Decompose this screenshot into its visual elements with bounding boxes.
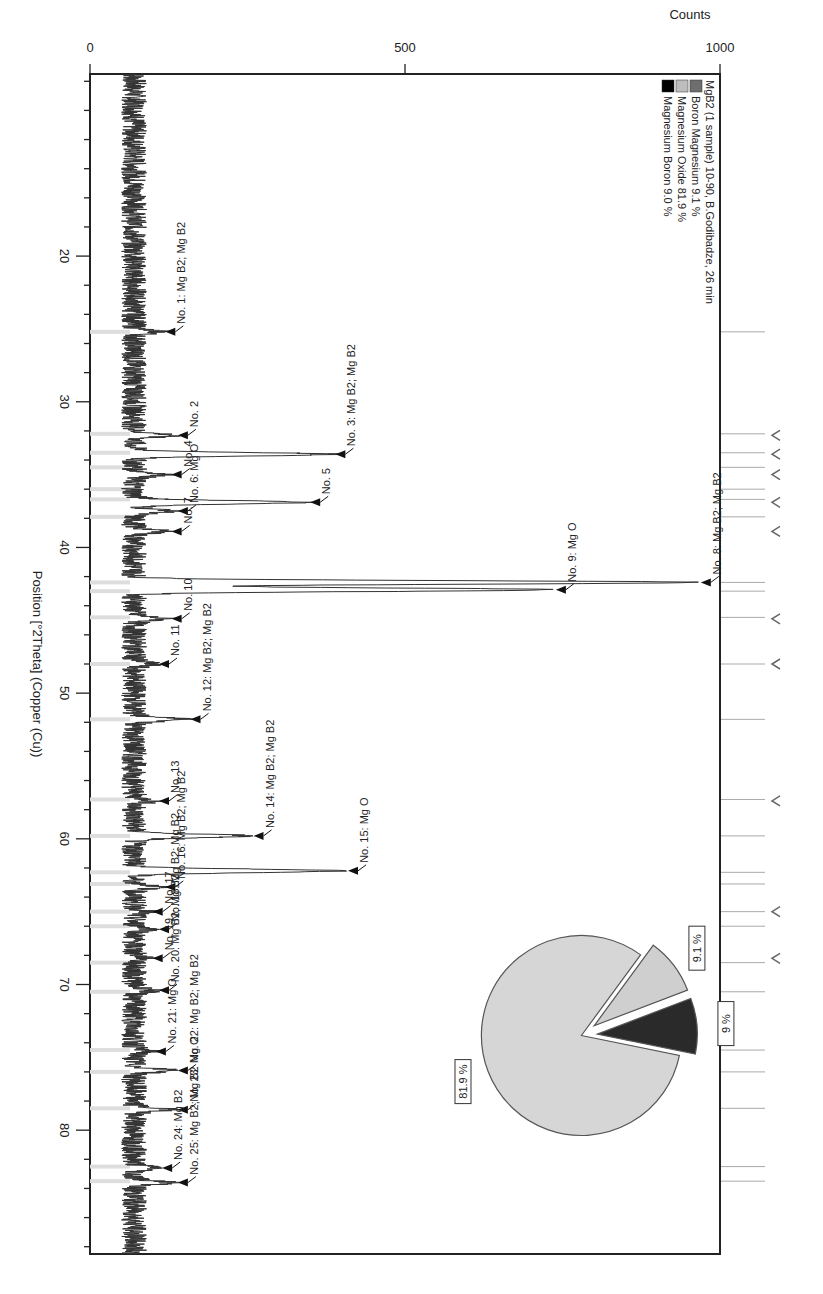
peak-label: No. 6: Mg O [188, 443, 200, 503]
phase-band [90, 615, 130, 619]
phase-band [90, 1165, 130, 1169]
phase-band [90, 515, 130, 519]
peak-label: No. 24: Mg B2 [172, 1090, 184, 1160]
phase-band [90, 1106, 130, 1110]
phase-band [90, 990, 130, 994]
peak-label: No. 11 [169, 624, 181, 656]
x-tick-label: 60 [57, 832, 72, 846]
reference-marker-icon [772, 430, 780, 440]
phase-band [90, 497, 130, 501]
phase-band [90, 882, 130, 886]
x-tick-label: 50 [57, 686, 72, 700]
phase-band [90, 451, 130, 455]
phase-band [90, 580, 130, 584]
peak-label: No. 14: Mg B2; Mg B2 [264, 720, 276, 828]
peak-label: No. 8: Mg B2; Mg B2 [711, 472, 723, 574]
phase-band [90, 797, 130, 801]
phase-band [90, 717, 130, 721]
peak-label: No. 10 [182, 578, 194, 610]
legend-entry: Magnesium Oxide 81.9 % [676, 96, 688, 222]
y-tick-label: 0 [86, 40, 93, 55]
x-tick-label: 80 [57, 1123, 72, 1137]
peak-label: No. 21: Mg O [166, 978, 178, 1044]
phase-band [90, 910, 130, 914]
x-tick-label: 70 [57, 977, 72, 991]
reference-markers [772, 430, 780, 963]
y-axis: 05001000Counts [86, 7, 734, 74]
peak-label: No. 20: Mg B2; Mg B2 [169, 874, 181, 982]
peak-label: No. 3: Mg B2; Mg B2 [345, 344, 357, 446]
reference-marker-icon [772, 449, 780, 459]
phase-band [90, 834, 130, 838]
x-tick-label: 30 [57, 395, 72, 409]
reference-marker-icon [772, 614, 780, 624]
x-tick-label: 20 [57, 249, 72, 263]
reference-marker-icon [772, 526, 780, 536]
reference-marker-icon [772, 796, 780, 806]
pie-tag: 81.9 % [457, 1064, 469, 1098]
pie-tag: 9 % [720, 1014, 732, 1033]
reference-marker-icon [772, 953, 780, 963]
phase-band [90, 330, 130, 334]
peak-label: No. 9: Mg O [566, 522, 578, 582]
phase-band [90, 1048, 130, 1052]
phase-band [90, 870, 130, 874]
pie-tag: 9.1 % [691, 934, 703, 962]
phase-band [90, 432, 130, 436]
phase-band [90, 1070, 130, 1074]
y-tick-label: 500 [394, 40, 416, 55]
rotated-chart-container: No. 1: Mg B2; Mg B2No. 2No. 3: Mg B2; Mg… [0, 0, 823, 1294]
reference-marker-icon [772, 470, 780, 480]
peak-label: No. 12: Mg B2; Mg B2 [201, 603, 213, 711]
phase-band [90, 662, 130, 666]
legend-entry: Boron Magnesium 9.1 % [690, 96, 702, 217]
reference-lines [720, 332, 765, 1181]
reference-marker-icon [772, 907, 780, 917]
x-axis: 20304050607080 [57, 81, 90, 1246]
y-tick-label: 1000 [706, 40, 735, 55]
xrd-chart: No. 1: Mg B2; Mg B2No. 2No. 3: Mg B2; Mg… [0, 0, 823, 1294]
peak-label: No. 15: Mg O [358, 797, 370, 863]
x-axis-label: Position [°2Theta] (Copper (Cu)) [30, 571, 45, 758]
peak-label: No. 2 [188, 401, 200, 427]
peak-label: No. 1: Mg B2; Mg B2 [175, 222, 187, 324]
phase-band [90, 1179, 130, 1183]
legend-swatch [690, 80, 702, 92]
legend-entry: MgB2 (1 sample) 10-90, B.Godibadze, 26 m… [704, 80, 716, 304]
peak-label: No. 7 [182, 497, 194, 523]
phase-band [90, 589, 130, 593]
legend-entry: Magnesium Boron 9.0 % [662, 96, 674, 217]
y-axis-label: Counts [669, 7, 711, 22]
reference-marker-icon [772, 659, 780, 669]
reference-marker-icon [772, 497, 780, 507]
peak-label: No. 25: Mg B2; Mg B2 [188, 1066, 200, 1174]
legend-swatch [676, 80, 688, 92]
peak-label: No. 5 [320, 468, 332, 494]
xrd-figure: No. 1: Mg B2; Mg B2No. 2No. 3: Mg B2; Mg… [0, 0, 823, 1294]
legend-swatch [662, 80, 674, 92]
x-tick-label: 40 [57, 540, 72, 554]
